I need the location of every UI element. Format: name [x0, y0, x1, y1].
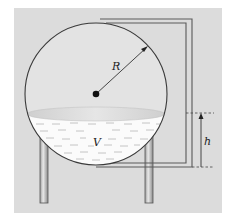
liquid-surface [27, 107, 165, 121]
height-label: h [204, 135, 211, 148]
sphere-center-dot [93, 91, 100, 98]
diagram-canvas: R V h [0, 0, 232, 221]
volume-label: V [93, 136, 102, 149]
right-leg [145, 135, 153, 203]
radius-label: R [111, 60, 120, 73]
